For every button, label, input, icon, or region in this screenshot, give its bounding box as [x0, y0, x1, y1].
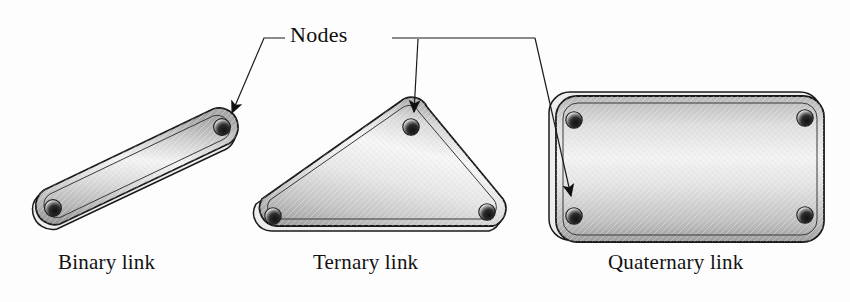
- quaternary-link-node: [566, 208, 582, 224]
- ternary-link-node: [479, 204, 495, 220]
- ternary-link-node: [403, 119, 419, 135]
- quaternary-link-node: [566, 112, 582, 128]
- ternary-link-caption: Ternary link: [313, 250, 418, 275]
- binary-link-caption: Binary link: [58, 250, 155, 275]
- ternary-link: [254, 97, 506, 231]
- ternary-link-node: [265, 208, 281, 224]
- quaternary-link: [549, 92, 824, 242]
- binary-link-node: [214, 119, 231, 136]
- binary-link-texture: [36, 108, 238, 225]
- binary-link: [33, 108, 239, 229]
- link-types-figure: Nodes Binary link Ternary link Quaternar…: [0, 0, 850, 302]
- quaternary-link-caption: Quaternary link: [608, 250, 743, 275]
- quaternary-link-texture: [556, 96, 824, 242]
- quaternary-link-node: [797, 110, 813, 126]
- binary-link-node: [45, 200, 62, 217]
- quaternary-link-node: [797, 207, 813, 223]
- ternary-link-texture: [260, 97, 506, 226]
- leader-line-binary: [232, 38, 285, 113]
- nodes-annotation-label: Nodes: [290, 22, 348, 48]
